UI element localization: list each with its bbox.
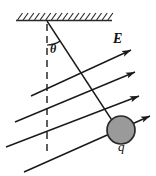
hatch-mark [80,13,85,20]
physics-figure: E q θ [0,0,156,176]
hatch-mark [68,13,73,20]
hatch-mark [85,13,90,20]
hatched-ceiling [16,13,113,21]
field-line-2 [15,72,135,122]
hatch-mark [46,13,51,20]
ceiling-hatch-marks [18,13,113,20]
angle-label: θ [50,43,56,55]
charge-label: q [118,140,125,153]
hatch-mark [102,13,107,20]
hatch-mark [18,13,23,20]
hatch-mark [23,13,28,20]
hatch-mark [108,13,113,20]
hatch-mark [74,13,79,20]
electric-field-label: E [113,32,122,46]
hatch-mark [57,13,62,20]
pendulum-string [47,21,117,128]
hatch-mark [63,13,68,20]
hatch-mark [29,13,34,20]
hatch-mark [91,13,96,20]
figure-canvas [0,0,156,176]
hatch-mark [51,13,56,20]
hatch-mark [40,13,45,20]
hatch-mark [34,13,39,20]
hatch-mark [97,13,102,20]
